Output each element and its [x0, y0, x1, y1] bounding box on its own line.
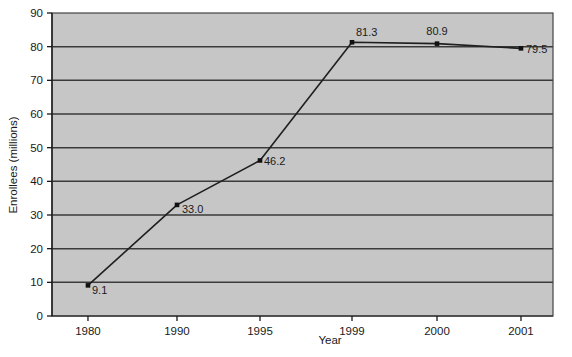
data-point-marker [86, 283, 91, 288]
data-point-marker [519, 46, 524, 51]
y-axis-ticks: 0102030405060708090 [30, 7, 52, 322]
data-point-value-label: 46.2 [264, 155, 285, 167]
data-point-value-label: 79.5 [526, 43, 547, 55]
y-axis-tick-label: 60 [30, 108, 43, 120]
y-axis-tick-label: 20 [30, 243, 43, 255]
y-axis-tick-label: 30 [30, 209, 43, 221]
x-axis-tick-label: 1995 [247, 325, 273, 337]
data-point-marker [350, 40, 355, 45]
y-axis-tick-label: 10 [30, 276, 43, 288]
data-point-value-label: 9.1 [92, 284, 107, 296]
chart-canvas: 0102030405060708090 19801990199519992000… [0, 0, 572, 357]
data-point-marker [258, 158, 263, 163]
data-point-marker [175, 203, 180, 208]
x-axis-ticks: 198019901995199920002001 [75, 316, 534, 337]
x-axis-tick-label: 1980 [75, 325, 101, 337]
line-chart: 0102030405060708090 19801990199519992000… [0, 0, 572, 357]
x-axis-tick-label: 1999 [339, 325, 365, 337]
x-axis-tick-label: 2000 [424, 325, 450, 337]
y-axis-title: Enrollees (millions) [7, 116, 19, 213]
y-axis-tick-label: 90 [30, 7, 43, 19]
y-axis-tick-label: 50 [30, 142, 43, 154]
y-axis-tick-label: 70 [30, 74, 43, 86]
data-point-value-label: 80.9 [426, 25, 447, 37]
y-axis-tick-label: 80 [30, 41, 43, 53]
y-axis-tick-label: 40 [30, 175, 43, 187]
data-point-value-label: 33.0 [182, 203, 203, 215]
y-axis-tick-label: 0 [37, 310, 43, 322]
data-point-value-label: 81.3 [356, 26, 377, 38]
data-point-marker [435, 41, 440, 46]
plot-area-background [52, 13, 553, 316]
x-axis-tick-label: 1990 [164, 325, 190, 337]
x-axis-tick-label: 2001 [508, 325, 534, 337]
x-axis-title: Year [318, 334, 341, 346]
